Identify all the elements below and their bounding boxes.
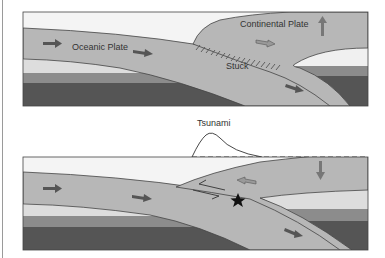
stuck-label: Stuck xyxy=(226,61,249,71)
panel-after xyxy=(23,151,368,250)
tsunami-wave xyxy=(192,133,262,157)
subduction-diagram: Oceanic Plate Continental Plate Stuck Ts… xyxy=(0,0,385,258)
panel-before: Oceanic Plate Continental Plate Stuck xyxy=(23,12,368,106)
tsunami-label: Tsunami xyxy=(197,118,231,128)
continental-plate-label: Continental Plate xyxy=(240,19,309,29)
oceanic-plate-label: Oceanic Plate xyxy=(72,42,128,52)
